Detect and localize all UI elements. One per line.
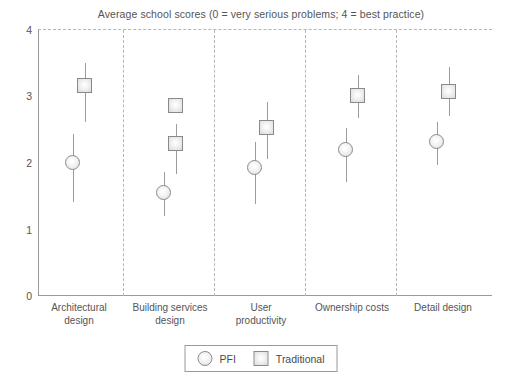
xtick-line-2: productivity <box>215 315 307 328</box>
data-point-square-marker[interactable] <box>168 98 183 113</box>
square-marker-icon <box>254 351 269 366</box>
xtick-line-1: Ownership costs <box>306 302 398 315</box>
xtick-label-building-services-design: Building services design <box>124 302 216 327</box>
xtick-line-1: Architectural <box>33 302 125 315</box>
xtick-label-architectural-design: Architectural design <box>33 302 125 327</box>
data-point-square-marker[interactable] <box>77 78 92 93</box>
data-point-circle-marker[interactable] <box>65 155 80 170</box>
legend-entry-traditional[interactable]: Traditional <box>254 351 325 366</box>
xtick-line-1: Detail design <box>397 302 489 315</box>
circle-marker-icon <box>198 351 213 366</box>
ytick-label-3: 3 <box>6 90 32 102</box>
chart-title: Average school scores (0 = very serious … <box>0 8 522 20</box>
plot-area <box>38 30 492 296</box>
chart-legend: PFI Traditional <box>185 345 338 372</box>
legend-label-pfi: PFI <box>220 353 236 365</box>
xtick-label-ownership-costs: Ownership costs <box>306 302 398 315</box>
xtick-label-detail-design: Detail design <box>397 302 489 315</box>
ytick-label-0: 0 <box>6 290 32 302</box>
data-point-square-marker[interactable] <box>259 120 274 135</box>
category-separator-1 <box>123 30 124 296</box>
xtick-line-2: design <box>124 315 216 328</box>
xtick-line-1: Building services <box>124 302 216 315</box>
legend-entry-pfi[interactable]: PFI <box>198 351 236 366</box>
legend-label-traditional: Traditional <box>276 353 325 365</box>
ytick-label-4: 4 <box>6 24 32 36</box>
category-separator-4 <box>396 30 397 296</box>
data-point-square-marker[interactable] <box>350 88 365 103</box>
xtick-label-user-productivity: User productivity <box>215 302 307 327</box>
xtick-line-1: User <box>215 302 307 315</box>
data-point-square-marker[interactable] <box>441 84 456 99</box>
xtick-line-2: design <box>33 315 125 328</box>
category-separator-2 <box>214 30 215 296</box>
category-separator-3 <box>305 30 306 296</box>
ytick-label-2: 2 <box>6 157 32 169</box>
chart-figure: Average school scores (0 = very serious … <box>0 0 522 375</box>
ytick-label-1: 1 <box>6 224 32 236</box>
data-point-circle-marker[interactable] <box>156 185 171 200</box>
data-point-square-marker[interactable] <box>168 136 183 151</box>
